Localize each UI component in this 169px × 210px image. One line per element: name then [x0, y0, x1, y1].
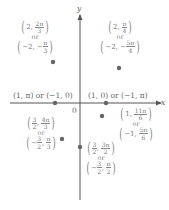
fraction: π2 [106, 161, 111, 175]
label-2-pi4: (2, π4 ) or (−2, − 5π4 ) [100, 20, 140, 55]
alternate-coord: (−1, 5π6 ) [118, 127, 153, 142]
point-1-0 [104, 101, 108, 105]
label-2-2pi3: (2, 2π3 ) or (−2, − π3 ) [15, 20, 55, 55]
fraction: π3 [43, 40, 48, 54]
label-1-0: (1, 0) or (−1, π) [88, 92, 148, 100]
label-32-4pi3: ( 32, 4π3 ) or (− 32, π3 ) [22, 116, 60, 151]
point-32-4pi3 [60, 137, 64, 141]
alternate-coord: (−2, − 5π4 ) [99, 40, 140, 55]
x-axis-label: x [161, 98, 165, 107]
fraction: 32 [32, 117, 37, 131]
label-1-pi: (1, π) or (−1, 0) [13, 92, 73, 100]
label-32-3pi2: ( 32, 3π2 ) or (− 32, π2 ) [82, 141, 120, 176]
alternate-coord: (− 32, π3 ) [25, 136, 57, 151]
fraction: 32 [37, 136, 42, 150]
point-2-2pi3 [51, 60, 55, 64]
alternate-coord: (− 32, π2 ) [85, 161, 117, 176]
origin-label: 0 [72, 107, 77, 115]
alternate-coord: (−2, − π3 ) [16, 40, 53, 55]
fraction: π3 [46, 136, 51, 150]
point-1-pi [53, 101, 57, 105]
point-1-11pi6 [100, 114, 104, 118]
y-axis-label: y [77, 4, 81, 13]
fraction: 32 [97, 161, 102, 175]
label-1-11pi6: (1, 11π6 ) or (−1, 5π6 ) [116, 107, 156, 142]
fraction: 5π4 [126, 40, 135, 54]
fraction: 32 [92, 142, 97, 156]
point-2-pi4 [117, 66, 121, 70]
fraction: 5π6 [139, 127, 148, 141]
